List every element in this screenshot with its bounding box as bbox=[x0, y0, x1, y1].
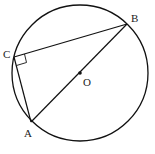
geometry-diagram: C B A O bbox=[0, 0, 155, 154]
label-c: C bbox=[3, 48, 10, 60]
center-point bbox=[78, 71, 82, 75]
label-a: A bbox=[24, 127, 32, 139]
segment-ca bbox=[14, 57, 31, 122]
label-b: B bbox=[131, 12, 138, 24]
label-o: O bbox=[83, 76, 91, 88]
